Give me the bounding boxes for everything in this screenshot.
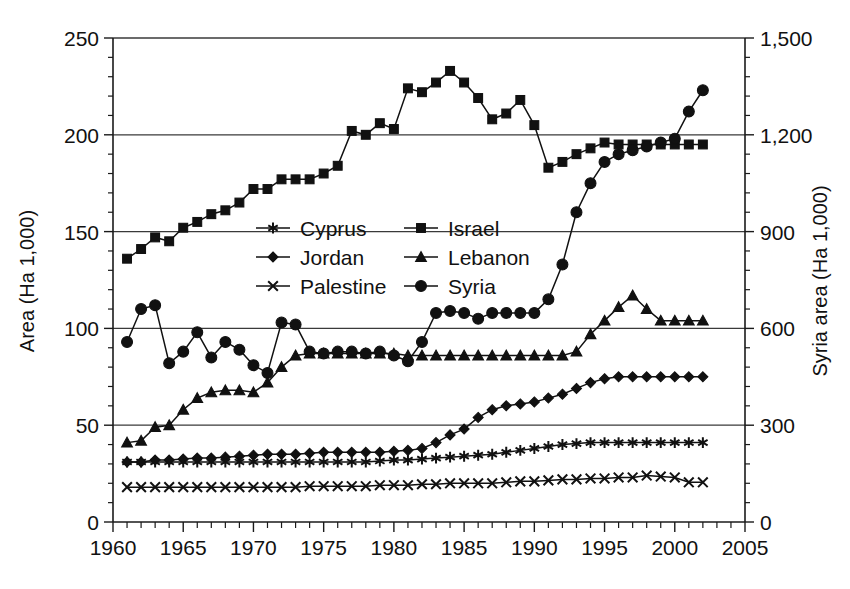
marker-israel [488,115,497,124]
marker-israel [235,198,244,207]
marker-israel [207,210,216,219]
legend-item-syria[interactable]: Syria [404,275,496,298]
chart-container: 05010015020025003006009001,2001,50019601… [0,0,850,589]
marker-syria [360,348,371,359]
secondary-y-axis-tick-label: 1,500 [760,27,813,50]
marker-israel [600,138,609,147]
marker-jordan [403,445,413,455]
marker-jordan [375,447,385,457]
marker-jordan [136,457,146,467]
marker-syria [655,137,666,148]
x-axis-tick-label: 2005 [722,536,769,559]
marker-israel [151,233,160,242]
legend-item-palestine[interactable]: Palestine [256,275,386,298]
marker-jordan [262,449,272,459]
marker-syria [487,307,498,318]
legend-item-cyprus[interactable]: Cyprus [256,217,367,240]
marker-syria [571,207,582,218]
marker-israel [179,223,188,232]
marker-israel [432,78,441,87]
series-palestine [122,471,707,492]
marker-israel [333,161,342,170]
y-axis-tick-label: 250 [64,27,99,50]
marker-syria [220,336,231,347]
marker-syria [332,346,343,357]
marker-israel [263,185,272,194]
marker-lebanon [627,290,638,300]
marker-israel [614,140,623,149]
marker-jordan [557,389,567,399]
marker-lebanon [192,393,203,403]
marker-syria [248,360,259,371]
marker-jordan [291,449,301,459]
marker-israel [361,130,370,139]
marker-israel [249,185,258,194]
marker-jordan [268,252,278,262]
marker-israel [417,224,426,233]
secondary-y-axis-title: Syria area (Ha 1,000) [809,185,831,376]
marker-jordan [515,399,525,409]
x-axis-tick-label: 1975 [300,536,347,559]
marker-syria [613,149,624,160]
x-axis-tick-label: 2000 [651,536,698,559]
marker-jordan [122,457,132,467]
marker-syria [192,327,203,338]
legend-item-israel[interactable]: Israel [404,217,499,240]
marker-syria [276,317,287,328]
y-axis-tick-label: 0 [87,511,99,534]
marker-jordan [389,446,399,456]
marker-israel [516,96,525,105]
marker-israel [684,140,693,149]
marker-syria [374,346,385,357]
marker-syria [683,106,694,117]
marker-jordan [445,430,455,440]
x-axis-tick-label: 1995 [581,536,628,559]
marker-syria [416,281,427,292]
secondary-y-axis-tick-label: 1,200 [760,124,813,147]
secondary-y-axis-tick-label: 0 [760,511,772,534]
marker-syria [445,306,456,317]
series-line-jordan [127,377,703,462]
y-axis-tick-label: 150 [64,221,99,244]
marker-jordan [487,405,497,415]
series-line-israel [127,71,703,259]
marker-jordan [670,372,680,382]
marker-israel [558,157,567,166]
marker-syria [543,294,554,305]
marker-syria [304,346,315,357]
marker-israel [474,94,483,103]
marker-israel [460,78,469,87]
marker-syria [178,346,189,357]
marker-syria [150,300,161,311]
marker-jordan [600,374,610,384]
marker-jordan [305,448,315,458]
x-axis-tick-label: 1985 [441,536,488,559]
legend-item-jordan[interactable]: Jordan [256,246,364,269]
marker-israel [375,119,384,128]
y-axis-tick-label: 200 [64,124,99,147]
secondary-y-axis-tick-label: 600 [760,317,795,340]
marker-syria [206,352,217,363]
marker-jordan [319,447,329,457]
marker-syria [585,178,596,189]
marker-syria [473,313,484,324]
marker-syria [122,336,133,347]
marker-syria [529,307,540,318]
marker-jordan [543,393,553,403]
marker-israel [277,175,286,184]
marker-syria [697,85,708,96]
marker-israel [221,206,230,215]
x-axis-tick-label: 1965 [160,536,207,559]
marker-syria [417,336,428,347]
series-line-lebanon [127,295,703,442]
marker-israel [137,245,146,254]
legend-item-lebanon[interactable]: Lebanon [404,246,530,269]
marker-israel [305,175,314,184]
secondary-y-axis-tick-label: 900 [760,221,795,244]
legend-label-israel: Israel [448,217,499,240]
marker-israel [319,169,328,178]
marker-israel [530,121,539,130]
y-axis-title: Area (Ha 1,000) [16,210,38,352]
marker-syria [459,307,470,318]
marker-jordan [501,401,511,411]
